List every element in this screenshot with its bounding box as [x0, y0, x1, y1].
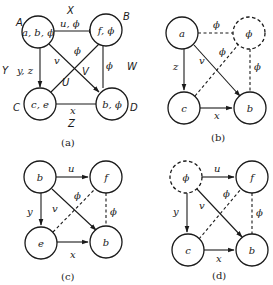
node-a-label: a, b, ϕ	[22, 27, 54, 38]
node-c-label: c	[185, 245, 191, 256]
edge-label-phi-top: ϕ	[213, 19, 220, 30]
corner-label-a: A	[15, 17, 23, 28]
node-a-label: a	[179, 28, 185, 39]
node-b-bottom-label: b	[103, 237, 109, 248]
node-c-label: c, e	[31, 99, 49, 110]
edge-label-v: v	[54, 55, 60, 66]
edge-label-phi-diag: ϕ	[74, 190, 81, 201]
node-e-label: e	[38, 238, 44, 249]
side-label-u: U	[62, 77, 70, 88]
node-b-top-label: b	[37, 172, 43, 183]
panel-c: b f e b u y v ϕ ϕ x (c)	[24, 161, 122, 282]
edge-label-phi-right: ϕ	[254, 61, 261, 72]
node-phi-label: ϕ	[246, 28, 253, 39]
corner-label-b: B	[123, 11, 130, 22]
edge-label-u-phi: u, ϕ	[60, 18, 80, 29]
side-label-x: X	[66, 5, 75, 16]
corner-label-c: C	[13, 102, 20, 113]
edge-label-x: x	[214, 110, 220, 121]
edge-label-x: x	[216, 253, 222, 264]
side-label-z: Z	[67, 118, 76, 129]
figure-canvas: a, b, ϕ f, ϕ c, e b, ϕ A B C D X Y W Z U…	[0, 0, 273, 285]
edge-label-v: v	[199, 55, 205, 66]
edge-label-y: y	[26, 206, 33, 217]
node-b-label: f, ϕ	[97, 25, 115, 36]
panel-b: a ϕ c b ϕ z v ϕ ϕ x (b)	[166, 17, 266, 143]
edge-label-x: x	[70, 249, 76, 260]
edge-label-v: v	[199, 200, 205, 211]
side-label-v-upper: V	[82, 66, 90, 77]
edge-label-phi-right: ϕ	[256, 207, 263, 218]
edge-label-phi-diag: ϕ	[223, 188, 230, 199]
edge-label-v: v	[52, 203, 58, 214]
node-d-label: b, ϕ	[102, 99, 122, 110]
node-b-label: b	[247, 103, 253, 114]
panel-d: ϕ f c b u y v ϕ ϕ x (d)	[170, 161, 268, 281]
corner-label-d: D	[130, 102, 138, 113]
caption-a: (a)	[61, 137, 75, 148]
edge-label-x: x	[70, 105, 76, 116]
caption-d: (d)	[212, 270, 226, 281]
edge-label-u: u	[214, 163, 220, 174]
side-label-y: Y	[2, 65, 9, 76]
node-b-label: b	[249, 245, 255, 256]
edge-label-y-z: y, z	[16, 65, 34, 76]
edge-label-z: z	[172, 61, 179, 72]
edge-label-y: y	[172, 206, 179, 217]
node-c-label: c	[181, 103, 187, 114]
node-phi-label: ϕ	[183, 172, 190, 183]
side-label-w: W	[127, 61, 138, 72]
edge-label-phi-diag: ϕ	[74, 45, 81, 56]
caption-c: (c)	[61, 271, 75, 282]
edge-label-phi-right: ϕ	[110, 206, 117, 217]
panel-a: a, b, ϕ f, ϕ c, e b, ϕ A B C D X Y W Z U…	[2, 5, 138, 148]
caption-b: (b)	[211, 132, 225, 143]
edge-label-phi-diag: ϕ	[219, 46, 226, 57]
edge-label-u: u	[68, 163, 74, 174]
edge-label-phi-right: ϕ	[106, 60, 113, 71]
